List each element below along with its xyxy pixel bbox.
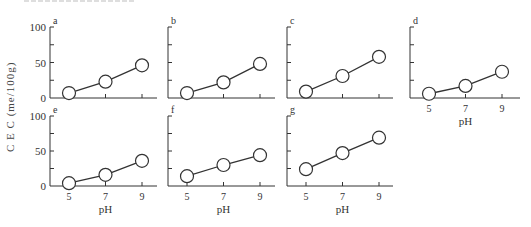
- x-tick-label: 9: [377, 191, 382, 202]
- x-tick-label: 9: [258, 191, 263, 202]
- x-tick-label: 5: [304, 191, 309, 202]
- data-point-marker: [99, 168, 112, 181]
- cec-ph-figure: C E C (me/100g) a050100bcd579pHe05010057…: [0, 0, 531, 227]
- panel-label: e: [53, 104, 58, 115]
- data-point-marker: [217, 159, 230, 172]
- data-point-marker: [373, 50, 386, 63]
- y-tick-label: 100: [30, 110, 47, 122]
- y-tick-label: 50: [35, 145, 47, 157]
- y-axis-label: C E C (me/100g): [4, 62, 17, 152]
- x-axis-label: pH: [459, 115, 473, 127]
- x-axis-label: pH: [99, 203, 113, 215]
- data-point-marker: [336, 147, 349, 160]
- y-tick-label: 0: [41, 180, 47, 192]
- panel-label: c: [290, 15, 295, 26]
- y-tick-label: 0: [41, 92, 47, 104]
- x-tick-label: 9: [140, 191, 145, 202]
- panel-a: a050100: [30, 15, 158, 104]
- data-point-marker: [336, 69, 349, 82]
- data-point-marker: [254, 149, 267, 162]
- data-point-marker: [459, 79, 472, 92]
- panel-f: f579pH: [168, 104, 275, 215]
- panel-g: g579pH: [287, 104, 393, 215]
- panel-label: a: [53, 15, 58, 26]
- data-point-marker: [496, 65, 509, 78]
- data-point-marker: [300, 85, 313, 98]
- y-tick-label: 100: [30, 21, 47, 33]
- panel-label: d: [413, 15, 418, 26]
- panel-e: e050100579pH: [30, 104, 158, 215]
- data-point-marker: [63, 87, 76, 100]
- data-point-marker: [63, 177, 76, 190]
- data-point-marker: [373, 131, 386, 144]
- data-point-marker: [181, 170, 194, 183]
- x-axis-label: pH: [336, 203, 350, 215]
- x-tick-label: 7: [340, 191, 345, 202]
- data-point-marker: [136, 154, 149, 167]
- x-tick-label: 7: [463, 103, 468, 114]
- x-tick-label: 7: [103, 191, 108, 202]
- data-point-marker: [254, 57, 267, 70]
- panel-label: f: [171, 104, 175, 115]
- x-tick-label: 9: [500, 103, 505, 114]
- x-axis-label: pH: [217, 203, 231, 215]
- data-point-marker: [99, 75, 112, 88]
- panel-d: d579pH: [410, 15, 520, 127]
- panel-label: g: [290, 104, 295, 115]
- x-tick-label: 5: [67, 191, 72, 202]
- data-point-marker: [136, 59, 149, 72]
- panel-label: b: [171, 15, 176, 26]
- x-tick-label: 5: [427, 103, 432, 114]
- y-tick-label: 50: [35, 57, 47, 69]
- x-tick-label: 7: [221, 191, 226, 202]
- panel-b: b: [168, 15, 275, 100]
- data-point-marker: [181, 87, 194, 100]
- data-point-marker: [300, 163, 313, 176]
- data-point-marker: [423, 87, 436, 100]
- data-point-marker: [217, 76, 230, 89]
- x-tick-label: 5: [185, 191, 190, 202]
- panel-c: c: [287, 15, 393, 98]
